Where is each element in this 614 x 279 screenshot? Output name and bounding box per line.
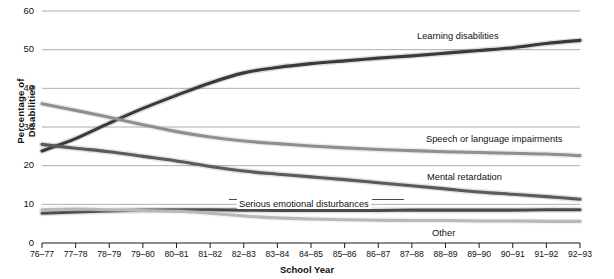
- x-tick-label-6: 82–83: [227, 249, 261, 259]
- x-tick-label-0: 76–77: [25, 249, 59, 259]
- x-tick-label-15: 91–92: [529, 249, 563, 259]
- series-label-text: Other: [430, 228, 457, 238]
- series-label-text: Serious emotional disturbances: [237, 199, 371, 209]
- x-tick-label-16: 92–93: [563, 249, 597, 259]
- x-tick-label-3: 79–80: [126, 249, 160, 259]
- x-tick-label-8: 84–85: [294, 249, 328, 259]
- series-annotation-1: Speech or language impairments: [424, 134, 564, 144]
- series-annotation-3: Serious emotional disturbances: [237, 199, 371, 209]
- x-tick-label-12: 88–89: [429, 249, 463, 259]
- x-tick-label-14: 90–91: [496, 249, 530, 259]
- x-tick-label-10: 86–87: [361, 249, 395, 259]
- series-annotation-0: Learning disabilities: [415, 31, 501, 41]
- x-tick-label-2: 78–79: [92, 249, 126, 259]
- series-label-text: Mental retardation: [425, 172, 504, 182]
- series-line-halo: [42, 104, 580, 156]
- x-tick-label-13: 89–90: [462, 249, 496, 259]
- x-tick-label-7: 83–84: [260, 249, 294, 259]
- series-label-text: Learning disabilities: [415, 31, 501, 41]
- x-tick-label-5: 81–82: [193, 249, 227, 259]
- x-tick-label-11: 87–88: [395, 249, 429, 259]
- x-tick-label-1: 77–78: [59, 249, 93, 259]
- x-axis-title: School Year: [0, 264, 614, 275]
- series-annotation-2: Mental retardation: [425, 172, 504, 182]
- x-tick-label-4: 80–81: [160, 249, 194, 259]
- chart-container: Percentage of Disabilities 0102030405060…: [0, 0, 614, 279]
- x-tick-label-9: 85–86: [328, 249, 362, 259]
- series-annotation-4: Other: [430, 228, 457, 238]
- series-label-text: Speech or language impairments: [424, 134, 564, 144]
